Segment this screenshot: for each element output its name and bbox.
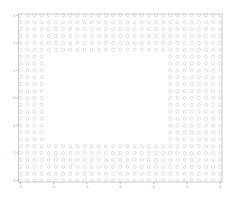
scatter-marker <box>190 69 193 72</box>
scatter-marker <box>212 138 215 141</box>
scatter-marker <box>169 96 172 99</box>
scatter-marker <box>169 172 172 175</box>
scatter-marker <box>54 145 57 148</box>
scatter-marker <box>33 76 36 79</box>
scatter-marker <box>33 172 36 175</box>
scatter-marker <box>190 165 193 168</box>
scatter-marker <box>183 34 186 37</box>
x-tick-label: 0 <box>119 185 121 189</box>
scatter-marker <box>219 138 222 141</box>
scatter-marker <box>19 41 22 44</box>
scatter-marker <box>126 158 129 161</box>
scatter-marker <box>212 145 215 148</box>
scatter-marker <box>40 48 43 51</box>
scatter-marker <box>183 145 186 148</box>
scatter-marker <box>176 76 179 79</box>
scatter-marker <box>219 131 222 134</box>
scatter-marker <box>133 48 136 51</box>
scatter-marker <box>126 165 129 168</box>
scatter-marker <box>26 83 29 86</box>
scatter-marker <box>133 172 136 175</box>
scatter-marker <box>126 151 129 154</box>
scatter-marker <box>40 165 43 168</box>
scatter-marker <box>40 83 43 86</box>
scatter-marker <box>40 110 43 113</box>
scatter-marker <box>33 48 36 51</box>
scatter-marker <box>26 124 29 127</box>
scatter-marker <box>219 48 222 51</box>
scatter-marker <box>54 28 57 31</box>
scatter-marker <box>176 62 179 65</box>
scatter-marker <box>212 110 215 113</box>
plot-frame <box>19 14 223 182</box>
scatter-marker <box>19 158 22 161</box>
scatter-marker <box>176 28 179 31</box>
scatter-marker <box>54 48 57 51</box>
scatter-marker <box>176 145 179 148</box>
scatter-marker <box>69 34 72 37</box>
scatter-marker <box>69 28 72 31</box>
scatter-marker <box>219 151 222 154</box>
scatter-marker <box>204 69 207 72</box>
scatter-marker <box>133 21 136 24</box>
scatter-marker <box>176 55 179 58</box>
scatter-marker <box>83 158 86 161</box>
scatter-marker <box>176 41 179 44</box>
scatter-marker <box>154 172 157 175</box>
scatter-marker <box>104 41 107 44</box>
scatter-marker <box>190 124 193 127</box>
scatter-marker <box>61 48 64 51</box>
scatter-marker <box>197 62 200 65</box>
scatter-marker <box>140 151 143 154</box>
scatter-marker <box>33 62 36 65</box>
scatter-marker <box>183 21 186 24</box>
scatter-marker <box>162 21 165 24</box>
scatter-marker <box>126 172 129 175</box>
scatter-marker <box>33 69 36 72</box>
scatter-marker <box>40 69 43 72</box>
scatter-marker <box>183 48 186 51</box>
x-tick-label: -2 <box>52 185 55 189</box>
scatter-marker <box>40 117 43 120</box>
scatter-marker <box>112 21 115 24</box>
scatter-marker <box>190 110 193 113</box>
scatter-marker <box>212 158 215 161</box>
scatter-marker <box>76 48 79 51</box>
scatter-marker <box>204 117 207 120</box>
scatter-marker <box>190 28 193 31</box>
scatter-marker <box>19 48 22 51</box>
scatter-marker <box>47 28 50 31</box>
scatter-marker <box>162 41 165 44</box>
scatter-marker <box>190 131 193 134</box>
scatter-marker <box>154 34 157 37</box>
scatter-marker <box>183 138 186 141</box>
scatter-marker <box>147 41 150 44</box>
scatter-marker <box>26 172 29 175</box>
scatter-marker <box>133 41 136 44</box>
scatter-marker <box>212 124 215 127</box>
x-tick-label: 2 <box>186 185 188 189</box>
scatter-marker <box>190 48 193 51</box>
scatter-marker <box>26 117 29 120</box>
scatter-marker <box>154 28 157 31</box>
scatter-marker <box>40 90 43 93</box>
scatter-marker <box>154 21 157 24</box>
scatter-marker <box>176 69 179 72</box>
scatter-marker <box>204 138 207 141</box>
scatter-marker <box>90 48 93 51</box>
scatter-marker <box>204 124 207 127</box>
scatter-marker <box>169 83 172 86</box>
scatter-marker <box>19 83 22 86</box>
scatter-marker <box>104 165 107 168</box>
scatter-marker <box>197 83 200 86</box>
scatter-marker <box>176 90 179 93</box>
scatter-marker <box>176 131 179 134</box>
scatter-marker <box>119 145 122 148</box>
scatter-marker <box>183 76 186 79</box>
scatter-marker <box>176 165 179 168</box>
scatter-marker <box>147 151 150 154</box>
scatter-marker <box>169 131 172 134</box>
y-tick-label: 0 <box>13 96 15 100</box>
scatter-marker <box>197 117 200 120</box>
scatter-marker <box>183 172 186 175</box>
